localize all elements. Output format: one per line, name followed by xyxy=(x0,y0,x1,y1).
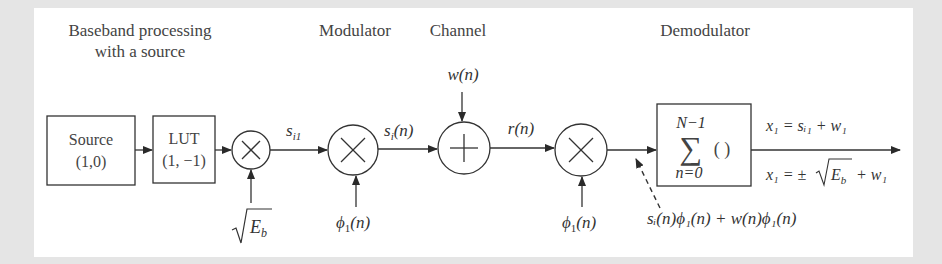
multiplier-2-modulator xyxy=(328,125,378,175)
summation-block: N−1 ∑ ( ) n=0 xyxy=(657,104,751,186)
phi1-demod-label: ϕ1(n) xyxy=(562,213,596,234)
source-label: Source xyxy=(69,131,113,148)
lut-label: LUT xyxy=(168,130,199,147)
channel-heading: Channel xyxy=(430,21,487,40)
source-block: Source (1,0) xyxy=(47,116,135,185)
svg-text:Eb: Eb xyxy=(830,166,847,186)
svg-text:x₁ = ±: x₁ = ± xyxy=(765,166,806,183)
modulator-heading: Modulator xyxy=(319,21,391,40)
demodulator-heading: Demodulator xyxy=(660,21,750,40)
baseband-heading-line1: Baseband processing xyxy=(68,21,212,40)
phi1-mod-label: ϕ1(n) xyxy=(336,213,370,234)
svg-text:Eb: Eb xyxy=(249,217,267,240)
multiplier-1 xyxy=(232,131,270,169)
si1-label: si1 xyxy=(286,121,301,142)
sum-body: ( ) xyxy=(714,139,731,160)
svg-text:+ w₁: + w₁ xyxy=(856,166,887,183)
block-diagram: Baseband processing with a source Modula… xyxy=(0,0,942,264)
output-eq-2: x₁ = ± Eb + w₁ xyxy=(765,159,887,186)
multiplier-3-demodulator xyxy=(555,124,607,176)
si-n-label: si(n) xyxy=(384,121,414,142)
source-values: (1,0) xyxy=(76,153,107,171)
lut-values: (1, −1) xyxy=(162,152,206,170)
sum-upper-limit: N−1 xyxy=(675,114,705,131)
adder-channel xyxy=(438,122,490,174)
sigma-icon: ∑ xyxy=(680,130,703,166)
baseband-heading-line2: with a source xyxy=(95,42,186,61)
lut-block: LUT (1, −1) xyxy=(153,116,215,183)
sqrt-eb-label: Eb xyxy=(232,209,272,243)
sum-lower-limit: n=0 xyxy=(676,164,703,181)
product-label: sᵢ(n)ϕ₁(n) + w(n)ϕ₁(n) xyxy=(647,209,797,228)
r-n-label: r(n) xyxy=(508,119,535,138)
noise-w-n-label: w(n) xyxy=(447,65,479,84)
output-eq-1: x₁ = sᵢ₁ + w₁ xyxy=(765,117,847,134)
